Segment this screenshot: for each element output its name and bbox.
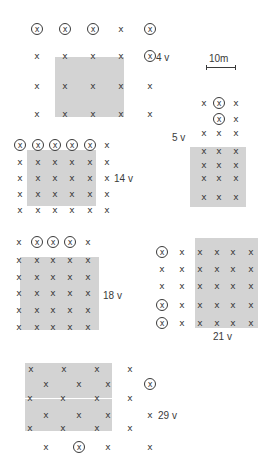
tree-marker-icon: x xyxy=(73,409,85,421)
circled-tree-marker-icon: x xyxy=(144,378,156,390)
tree-marker-icon: x xyxy=(73,378,85,390)
tree-marker-icon: x xyxy=(144,441,156,453)
tree-marker-icon: x xyxy=(102,409,114,421)
tree-marker-icon: x xyxy=(24,392,36,404)
tree-marker-icon: x xyxy=(40,378,52,390)
tree-marker-icon: x xyxy=(124,363,136,375)
tree-marker-icon: x xyxy=(24,422,36,434)
tree-marker-icon: x xyxy=(124,392,136,404)
tree-marker-icon: x xyxy=(57,392,69,404)
tree-marker-icon: x xyxy=(91,422,103,434)
tree-marker-icon: x xyxy=(57,422,69,434)
tree-marker-icon: x xyxy=(40,441,52,453)
tree-marker-icon: x xyxy=(25,363,37,375)
plot-label: 29 v xyxy=(158,410,177,421)
tree-plot-diagram: 10m xxxxxxxxxxxxxxxxxxxx4 vxxxxxxxxxxxxx… xyxy=(0,0,263,466)
tree-marker-icon: x xyxy=(144,409,156,421)
tree-marker-icon: x xyxy=(91,392,103,404)
tree-marker-icon: x xyxy=(102,378,114,390)
tree-marker-icon: x xyxy=(91,363,103,375)
plot-29v: xxxxxxxxxxxxxxxxxxxxxxxx29 v xyxy=(0,0,263,466)
tree-marker-icon: x xyxy=(102,441,114,453)
tree-marker-icon: x xyxy=(40,409,52,421)
tree-marker-icon: x xyxy=(124,422,136,434)
circled-tree-marker-icon: x xyxy=(73,441,85,453)
tree-marker-icon: x xyxy=(58,363,70,375)
